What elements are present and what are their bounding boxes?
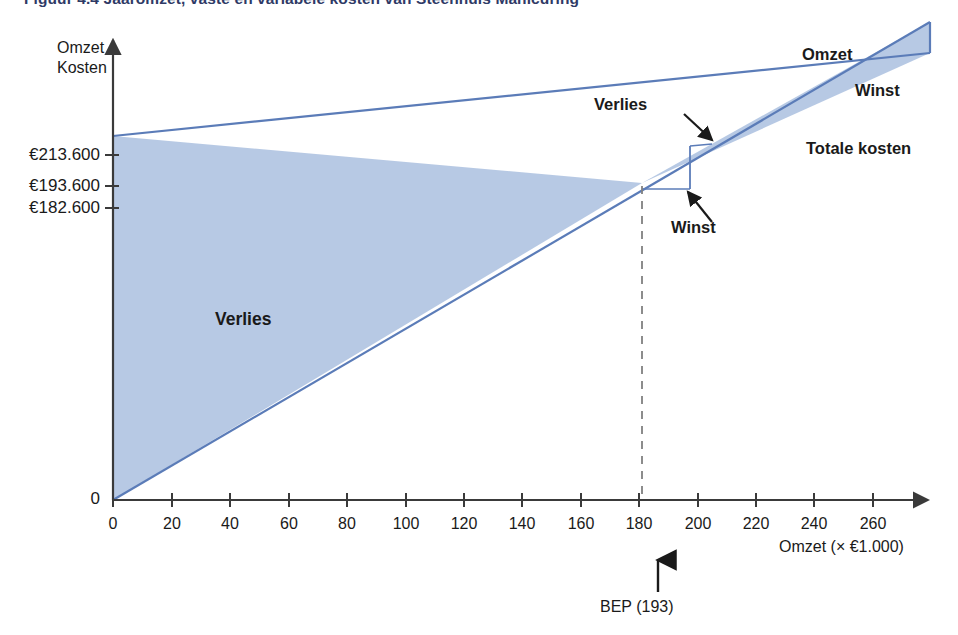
- bep-label: BEP (193): [600, 598, 674, 616]
- y-tick-label-213600: €213.600: [0, 145, 100, 165]
- y-tick-label-182600: €182.600: [0, 198, 100, 218]
- verlies-callout-label: Verlies: [594, 95, 647, 114]
- loss-region-label: Verlies: [215, 309, 271, 330]
- x-tick-label-180: 180: [619, 515, 659, 533]
- x-tick-label-140: 140: [502, 515, 542, 533]
- x-tick-label-200: 200: [678, 515, 718, 533]
- winst-callout-label: Winst: [671, 218, 716, 237]
- x-tick-label-240: 240: [794, 515, 834, 533]
- x-tick-label-40: 40: [210, 515, 250, 533]
- omzet-series-label: Omzet: [802, 45, 852, 64]
- verlies-callout-arrow: [684, 114, 712, 140]
- x-tick-label-220: 220: [736, 515, 776, 533]
- x-tick-label-60: 60: [269, 515, 309, 533]
- y-tick-label-193600: €193.600: [0, 176, 100, 196]
- y-tick-label-0: 0: [60, 489, 100, 509]
- y-axis-title-line2: Kosten: [57, 58, 107, 77]
- x-axis-title: Omzet (× €1.000): [779, 537, 904, 556]
- loss-area: [113, 136, 642, 500]
- x-tick-label-260: 260: [853, 515, 893, 533]
- x-tick-label-160: 160: [561, 515, 601, 533]
- x-tick-label-120: 120: [444, 515, 484, 533]
- x-tick-label-80: 80: [327, 515, 367, 533]
- y-axis-title-line1: Omzet: [57, 38, 104, 57]
- winst-region-label: Winst: [855, 81, 900, 100]
- totale-kosten-series-label: Totale kosten: [806, 139, 911, 158]
- x-tick-label-20: 20: [152, 515, 192, 533]
- x-tick-label-0: 0: [93, 515, 133, 533]
- figure-container: Figuur 4.4 Jaaromzet, vaste en variabele…: [0, 0, 958, 635]
- x-tick-label-100: 100: [386, 515, 426, 533]
